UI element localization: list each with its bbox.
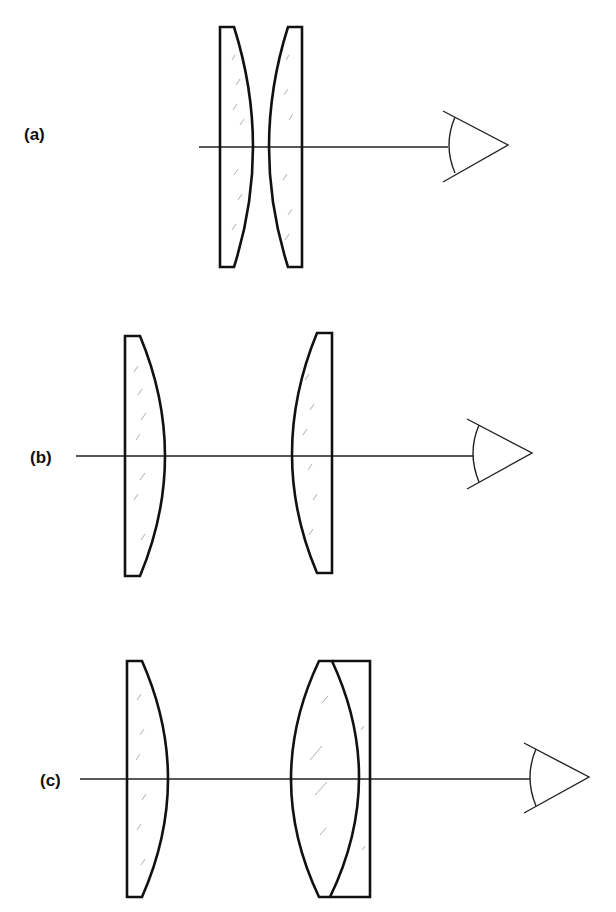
lens-diagram: (a) (b)	[0, 0, 616, 912]
panel-label-b: (b)	[30, 448, 52, 467]
eye-icon	[443, 111, 508, 182]
panel-label-a: (a)	[24, 125, 45, 144]
panel-a: (a)	[24, 27, 508, 267]
glass-hatching-b	[134, 366, 317, 540]
lens-plano-convex-b2	[292, 333, 332, 573]
panel-b: (b)	[30, 333, 532, 576]
panel-c: (c)	[40, 661, 589, 897]
panel-label-c: (c)	[40, 771, 61, 790]
eye-icon	[524, 743, 589, 813]
eye-icon	[467, 419, 532, 489]
